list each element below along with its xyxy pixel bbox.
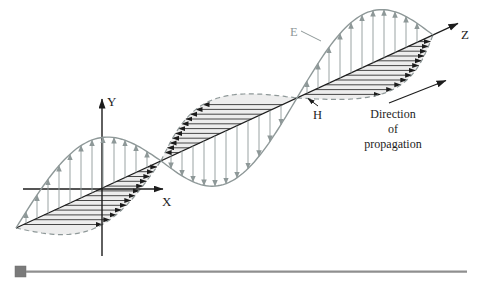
- bottom-rule-square: [15, 266, 26, 277]
- y-axis-label: Y: [107, 94, 117, 109]
- z-axis-label: Z: [461, 27, 469, 42]
- direction-caption-line2: of: [388, 122, 398, 136]
- direction-caption-line1: Direction: [370, 107, 415, 121]
- e-label-leader-line: [301, 31, 321, 41]
- direction-caption-line3: propagation: [364, 137, 421, 151]
- em-wave-figure: Y X Z E H Direction of propagation: [0, 0, 488, 289]
- h-field-shaded-regions: [16, 35, 433, 235]
- h-field-label: H: [313, 108, 322, 122]
- bottom-rule: [15, 266, 467, 277]
- x-axis-label: X: [162, 194, 172, 209]
- h-label-leader-arrow: [308, 99, 318, 107]
- e-field-label: E: [290, 25, 298, 39]
- figure-canvas: Y X Z E H Direction of propagation: [0, 0, 488, 289]
